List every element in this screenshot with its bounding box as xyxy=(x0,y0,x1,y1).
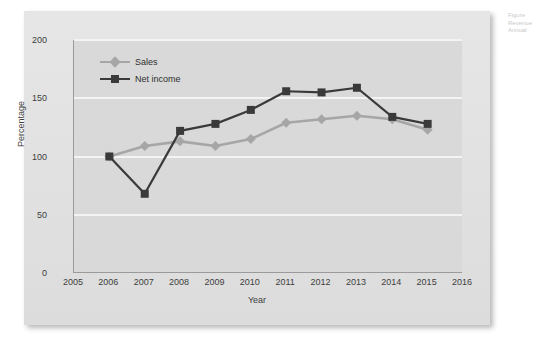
caption-line-1: Figure xyxy=(508,12,536,20)
x-tick-label-2008: 2008 xyxy=(161,277,197,287)
data-point-2009 xyxy=(210,141,220,151)
legend-item-sales[interactable]: Sales xyxy=(100,53,181,70)
data-point-2012 xyxy=(318,88,326,96)
data-point-2013 xyxy=(353,84,361,92)
data-point-2015 xyxy=(424,120,432,128)
series-net-income xyxy=(105,84,431,198)
legend-marker-square-icon xyxy=(111,75,119,83)
x-tick-label-2016: 2016 xyxy=(444,277,480,287)
legend-item-net-income[interactable]: Net income xyxy=(100,70,181,87)
y-tick-label-150: 150 xyxy=(7,93,47,103)
chart-legend: SalesNet income xyxy=(100,53,181,87)
data-point-2007 xyxy=(140,141,150,151)
legend-label: Sales xyxy=(135,57,158,67)
figure-panel: 050100150200 200520062007200820092010201… xyxy=(24,11,490,325)
x-tick-label-2015: 2015 xyxy=(409,277,445,287)
y-tick-label-100: 100 xyxy=(7,152,47,162)
data-point-2011 xyxy=(282,87,290,95)
series-line xyxy=(109,88,427,194)
data-point-2010 xyxy=(247,106,255,114)
x-tick-label-2006: 2006 xyxy=(90,277,126,287)
y-tick-label-0: 0 xyxy=(7,268,47,278)
legend-swatch-diamond-icon xyxy=(100,56,130,67)
data-point-2010 xyxy=(246,134,256,144)
x-tick-label-2005: 2005 xyxy=(55,277,91,287)
legend-marker-diamond-icon xyxy=(109,56,120,67)
data-point-2014 xyxy=(388,113,396,121)
legend-label: Net income xyxy=(135,74,181,84)
x-tick-label-2012: 2012 xyxy=(303,277,339,287)
data-point-2007 xyxy=(141,190,149,198)
series-sales xyxy=(104,111,432,162)
legend-swatch-square-icon xyxy=(100,73,130,84)
figure-caption: FigureRevenueAnnual xyxy=(508,12,536,35)
y-tick-label-200: 200 xyxy=(7,35,47,45)
data-point-2013 xyxy=(352,111,362,121)
caption-line-3: Annual xyxy=(508,27,536,35)
y-axis-title: Percentage xyxy=(16,101,26,147)
data-point-2008 xyxy=(176,127,184,135)
x-tick-label-2014: 2014 xyxy=(373,277,409,287)
data-point-2011 xyxy=(281,118,291,128)
series-line xyxy=(109,116,427,157)
data-point-2006 xyxy=(105,153,113,161)
x-tick-label-2007: 2007 xyxy=(126,277,162,287)
x-tick-label-2011: 2011 xyxy=(267,277,303,287)
x-tick-label-2009: 2009 xyxy=(196,277,232,287)
data-point-2009 xyxy=(211,120,219,128)
x-tick-label-2013: 2013 xyxy=(338,277,374,287)
data-point-2012 xyxy=(317,114,327,124)
x-axis-title: Year xyxy=(24,295,490,305)
caption-line-2: Revenue xyxy=(508,20,536,28)
y-tick-label-50: 50 xyxy=(7,210,47,220)
x-tick-label-2010: 2010 xyxy=(232,277,268,287)
